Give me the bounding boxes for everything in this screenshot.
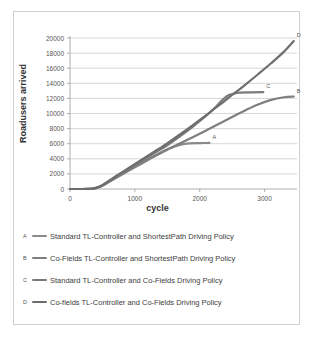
- series-line-A: [70, 143, 209, 189]
- legend-line-swatch: [32, 279, 47, 282]
- series-line-C: [70, 92, 263, 189]
- legend-item-A[interactable]: AStandard TL-Controller and ShortestPath…: [14, 225, 301, 247]
- x-axis-tick-label: 1000: [120, 195, 150, 202]
- legend-label: Standard TL-Controller and Co-Fields Dri…: [50, 276, 222, 285]
- y-axis-tick-label: 16000: [30, 65, 64, 72]
- legend-line-swatch: [32, 235, 47, 238]
- y-axis-tick-label: 10000: [30, 110, 64, 117]
- y-axis-tick-label: 2000: [30, 170, 64, 177]
- y-axis-tick-label: 14000: [30, 80, 64, 87]
- x-axis-title: cycle: [14, 203, 301, 213]
- legend-key-letter: A: [23, 233, 32, 239]
- y-axis-tick-label: 20000: [30, 35, 64, 42]
- legend-item-D[interactable]: DCo-fields TL-Controller and Co-Fields D…: [14, 291, 301, 313]
- legend-label: Co-fields TL-Controller and Co-Fields Dr…: [50, 298, 222, 307]
- series-line-B: [70, 97, 294, 190]
- legend-key-letter: C: [23, 277, 32, 283]
- legend-label: Co-Fields TL-Controller and ShortestPath…: [50, 254, 235, 263]
- series-end-label-B: B: [297, 88, 301, 94]
- series-line-D: [70, 41, 294, 189]
- x-axis-tick-label: 3000: [250, 195, 280, 202]
- series-end-label-A: A: [212, 134, 216, 140]
- y-axis-tick-label: 0: [30, 186, 64, 193]
- legend-label: Standard TL-Controller and ShortestPath …: [50, 232, 234, 241]
- y-axis-tick-label: 12000: [30, 95, 64, 102]
- chart-legend: AStandard TL-Controller and ShortestPath…: [14, 225, 301, 313]
- series-end-label-C: C: [266, 83, 270, 89]
- y-axis-tick-label: 8000: [30, 125, 64, 132]
- figure-frame: Roadusers arrived 0200040006000800010000…: [13, 11, 300, 325]
- legend-item-B[interactable]: BCo-Fields TL-Controller and ShortestPat…: [14, 247, 301, 269]
- legend-item-C[interactable]: CStandard TL-Controller and Co-Fields Dr…: [14, 269, 301, 291]
- plot-area: Roadusers arrived 0200040006000800010000…: [14, 12, 301, 212]
- series-end-label-D: D: [297, 32, 301, 38]
- x-axis-tick-label: 0: [55, 195, 85, 202]
- y-axis-tick-label: 18000: [30, 50, 64, 57]
- y-axis-tick-label: 6000: [30, 140, 64, 147]
- legend-line-swatch: [32, 257, 47, 260]
- legend-key-letter: B: [23, 255, 32, 261]
- y-axis-tick-label: 4000: [30, 155, 64, 162]
- x-axis-tick-label: 2000: [185, 195, 215, 202]
- legend-key-letter: D: [23, 299, 32, 305]
- legend-line-swatch: [32, 301, 47, 304]
